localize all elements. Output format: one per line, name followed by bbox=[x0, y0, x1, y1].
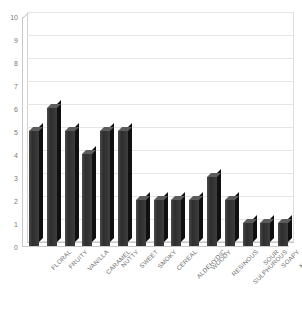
x-tick-label: CEREAL bbox=[174, 248, 198, 272]
bar-front-face bbox=[260, 223, 270, 246]
bar[interactable] bbox=[260, 223, 270, 246]
bar[interactable] bbox=[225, 200, 235, 246]
y-tick-label: 9 bbox=[2, 37, 18, 44]
bar[interactable] bbox=[100, 131, 110, 246]
bar[interactable] bbox=[29, 131, 39, 246]
bar-side-face bbox=[199, 192, 203, 242]
bar-side-face bbox=[57, 100, 61, 242]
bar-front-face bbox=[100, 131, 110, 246]
bar[interactable] bbox=[278, 223, 288, 246]
bar[interactable] bbox=[154, 200, 164, 246]
bar[interactable] bbox=[118, 131, 128, 246]
y-tick-label: 0 bbox=[2, 244, 18, 251]
bar[interactable] bbox=[189, 200, 199, 246]
bar-front-face bbox=[118, 131, 128, 246]
bar-side-face bbox=[217, 169, 221, 242]
bar-front-face bbox=[189, 200, 199, 246]
bar[interactable] bbox=[243, 223, 253, 246]
bar[interactable] bbox=[171, 200, 181, 246]
bar[interactable] bbox=[47, 108, 57, 246]
bar[interactable] bbox=[82, 154, 92, 246]
bar-front-face bbox=[47, 108, 57, 246]
y-tick-label: 2 bbox=[2, 198, 18, 205]
x-axis-ticks: FLORALFRUITYVANILLACARAMELNUTTYSWEETSMOK… bbox=[22, 248, 302, 309]
x-tick-label: RESINOUS bbox=[230, 248, 259, 277]
bar-side-face bbox=[92, 146, 96, 242]
chart-title bbox=[0, 0, 302, 7]
y-tick-label: 6 bbox=[2, 106, 18, 113]
bar[interactable] bbox=[136, 200, 146, 246]
bar-front-face bbox=[207, 177, 217, 246]
bar-side-face bbox=[128, 123, 132, 242]
y-tick-label: 3 bbox=[2, 175, 18, 182]
bar-front-face bbox=[243, 223, 253, 246]
bar-side-face bbox=[75, 123, 79, 242]
bar[interactable] bbox=[207, 177, 217, 246]
bar-chart: 012345678910 FLORALFRUITYVANILLACARAMELN… bbox=[0, 0, 302, 309]
bar-side-face bbox=[181, 192, 185, 242]
bar-front-face bbox=[65, 131, 75, 246]
bar-side-face bbox=[39, 123, 43, 242]
bar-front-face bbox=[278, 223, 288, 246]
bar-front-face bbox=[82, 154, 92, 246]
bar-front-face bbox=[154, 200, 164, 246]
plot-area bbox=[22, 12, 294, 247]
bar-front-face bbox=[29, 131, 39, 246]
bar-front-face bbox=[136, 200, 146, 246]
y-tick-label: 1 bbox=[2, 221, 18, 228]
y-tick-label: 7 bbox=[2, 83, 18, 90]
y-tick-label: 10 bbox=[2, 14, 18, 21]
y-tick-label: 5 bbox=[2, 129, 18, 136]
bar-side-face bbox=[110, 123, 114, 242]
bar-front-face bbox=[171, 200, 181, 246]
bar[interactable] bbox=[65, 131, 75, 246]
bar-series bbox=[22, 12, 294, 247]
bar-front-face bbox=[225, 200, 235, 246]
x-tick-label: SWEET bbox=[138, 248, 159, 269]
y-tick-label: 4 bbox=[2, 152, 18, 159]
y-tick-label: 8 bbox=[2, 60, 18, 67]
